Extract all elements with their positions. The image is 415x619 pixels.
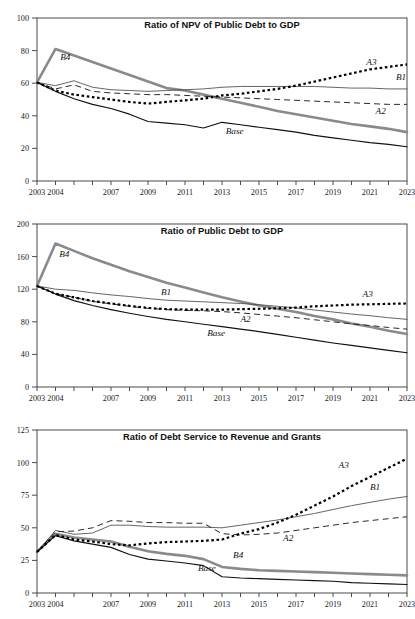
y-tick-label: 100 [17,459,29,468]
plot-frame [37,430,407,593]
figure-page: 0204060801002003200420072009201120132015… [0,0,415,619]
x-tick-label: 2004 [47,394,63,403]
x-tick-label: 2013 [214,600,230,609]
x-tick-label: 2003 [29,600,45,609]
x-tick-label: 2009 [140,394,156,403]
series-label-b1: B1 [396,72,406,82]
series-label-a3: A3 [338,460,350,470]
y-tick-label: 80 [21,318,29,327]
x-tick-label: 2019 [325,188,341,197]
x-tick-label: 2019 [325,394,341,403]
y-tick-label: 75 [21,491,29,500]
series-label-b1: B1 [161,287,171,297]
series-line-b1 [37,81,407,92]
series-label-base: Base [198,563,216,573]
x-tick-label: 2017 [288,188,304,197]
x-tick-label: 2019 [325,600,341,609]
y-tick-label: 100 [17,14,29,23]
y-tick-label: 40 [21,350,29,359]
x-tick-label: 2021 [362,188,378,197]
y-tick-label: 0 [25,177,29,186]
series-label-base: Base [207,328,225,338]
series-line-a2 [37,517,407,552]
x-tick-label: 2004 [47,188,63,197]
series-line-b1 [37,286,407,319]
series-label-b4: B4 [60,52,71,62]
x-tick-label: 2003 [29,394,45,403]
chart-title: Ratio of Debt Service to Revenue and Gra… [123,432,321,442]
chart-panel-public-debt-to-gdp: 0408012016020020032004200720092011201320… [0,206,415,413]
series-line-b4 [37,49,407,132]
x-tick-label: 2017 [288,394,304,403]
y-tick-label: 120 [17,285,29,294]
x-tick-label: 2023 [399,394,415,403]
x-tick-label: 2013 [214,188,230,197]
chart-panel-debt-service-to-revenue: 0255075100125200320042007200920112013201… [0,412,415,619]
series-label-a3: A3 [362,289,374,299]
x-tick-label: 2013 [214,394,230,403]
x-tick-label: 2011 [177,188,193,197]
x-tick-label: 2021 [362,394,378,403]
x-tick-label: 2004 [47,600,63,609]
series-label-a2: A2 [375,106,387,116]
chart-svg: 0408012016020020032004200720092011201320… [0,206,415,413]
series-label-b4: B4 [233,550,244,560]
series-line-base [37,536,407,585]
x-tick-label: 2007 [103,600,119,609]
y-tick-label: 80 [21,47,29,56]
y-tick-label: 60 [21,79,29,88]
x-tick-label: 2011 [177,394,193,403]
x-tick-label: 2011 [177,600,193,609]
series-line-b4 [37,244,407,334]
x-tick-label: 2023 [399,600,415,609]
x-tick-label: 2007 [103,394,119,403]
chart-title: Ratio of NPV of Public Debt to GDP [144,20,299,30]
series-label-base: Base [226,126,244,136]
series-label-a2: A2 [282,533,294,543]
x-tick-label: 2021 [362,600,378,609]
chart-svg: 0204060801002003200420072009201120132015… [0,0,415,207]
series-label-a2: A2 [240,314,252,324]
chart-panel-npv-debt-to-gdp: 0204060801002003200420072009201120132015… [0,0,415,207]
x-tick-label: 2015 [251,394,267,403]
series-label-a3: A3 [365,57,377,67]
y-tick-label: 200 [17,220,29,229]
x-tick-label: 2023 [399,188,415,197]
series-line-base [37,286,407,353]
series-line-a2 [37,82,407,104]
x-tick-label: 2007 [103,188,119,197]
y-tick-label: 20 [21,144,29,153]
y-tick-label: 50 [21,524,29,533]
x-tick-label: 2017 [288,600,304,609]
y-tick-label: 0 [25,383,29,392]
y-tick-label: 125 [17,426,29,435]
series-label-b4: B4 [59,249,70,259]
y-tick-label: 40 [21,112,29,121]
x-tick-label: 2009 [140,600,156,609]
y-tick-label: 0 [25,589,29,598]
x-tick-label: 2015 [251,600,267,609]
x-tick-label: 2003 [29,188,45,197]
chart-svg: 0255075100125200320042007200920112013201… [0,412,415,619]
x-tick-label: 2015 [251,188,267,197]
x-tick-label: 2009 [140,188,156,197]
series-line-base [37,82,407,146]
y-tick-label: 160 [17,253,29,262]
y-tick-label: 25 [21,556,29,565]
chart-title: Ratio of Public Debt to GDP [161,226,283,236]
series-label-b1: B1 [370,482,380,492]
